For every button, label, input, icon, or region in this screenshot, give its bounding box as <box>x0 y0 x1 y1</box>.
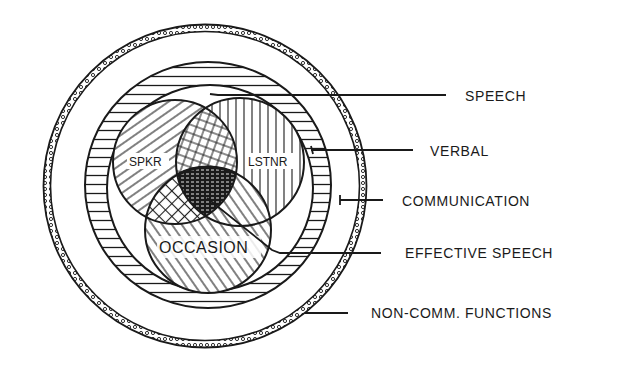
effective-speech-label: EFFECTIVE SPEECH <box>405 245 553 261</box>
listener-label: LSTNR <box>248 155 288 169</box>
occasion-label: OCCASION <box>159 239 248 256</box>
non-comm-functions-label: NON-COMM. FUNCTIONS <box>371 305 552 321</box>
speech-label: SPEECH <box>465 88 526 104</box>
speech-communication-diagram: SPKR LSTNR OCCASION SPEECH VERBAL COMMUN… <box>0 0 620 379</box>
callout-labels: SPEECH VERBAL COMMUNICATION EFFECTIVE SP… <box>371 88 553 321</box>
verbal-label: VERBAL <box>430 143 489 159</box>
speech-leader <box>210 94 446 95</box>
communication-label: COMMUNICATION <box>402 193 530 209</box>
speaker-label: SPKR <box>129 155 162 169</box>
